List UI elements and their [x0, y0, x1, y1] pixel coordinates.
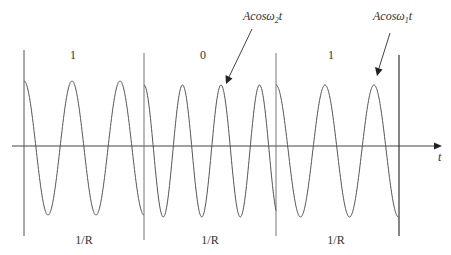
annotation-omega1: Acosω1t	[372, 9, 413, 25]
bit-label-1: 1	[70, 48, 76, 62]
waveform-bit-1-second	[276, 85, 399, 217]
axis-label-t: t	[438, 150, 442, 164]
axis-arrow-icon	[434, 143, 442, 150]
fsk-diagram: t 1 0 1 1/R 1/R 1/R Acosω2t Acosω1t	[0, 0, 451, 255]
duration-label-1: 1/R	[75, 233, 92, 247]
bit-label-2: 0	[200, 48, 206, 62]
annotation-omega2: Acosω2t	[242, 9, 283, 25]
duration-label-2: 1/R	[201, 233, 218, 247]
annotation-arrow-line-omega1	[379, 33, 390, 68]
duration-label-3: 1/R	[327, 233, 344, 247]
bit-label-3: 1	[328, 48, 334, 62]
annotation-arrow-line-omega2	[229, 29, 252, 77]
arrow-head-icon	[375, 67, 383, 76]
waveform-bit-1	[24, 81, 144, 215]
waveform-bit-0	[144, 85, 276, 217]
